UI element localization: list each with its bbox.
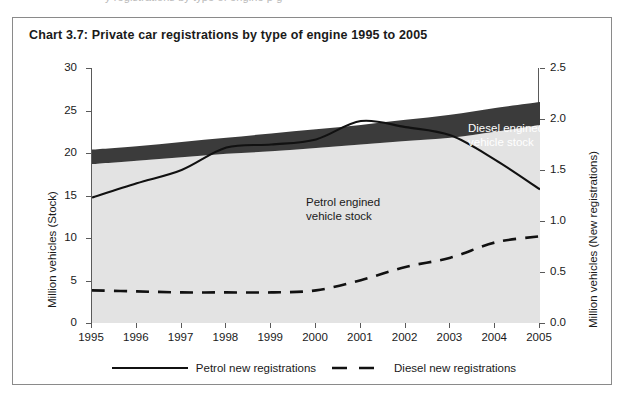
x-axis-tick-label: 2004 (472, 331, 516, 343)
x-axis-tick-label: 1996 (114, 331, 158, 343)
y-right-tick-mark (540, 323, 545, 324)
y-left-tick-mark (86, 323, 91, 324)
y-axis-right-tick-label: 0.0 (550, 316, 566, 328)
x-axis-tick-label: 2001 (338, 331, 382, 343)
y-axis-left-tick-label: 25 (43, 104, 77, 116)
x-axis-tick-label: 2002 (383, 331, 427, 343)
x-axis-tick-label: 2000 (293, 331, 337, 343)
x-axis-tick-label: 2003 (427, 331, 471, 343)
x-axis-tick-label: 2005 (517, 331, 561, 343)
x-axis-tick-label: 1998 (203, 331, 247, 343)
clipped-header-strip: y registrations by type of engine p g (0, 0, 625, 12)
y-axis-right-tick-label: 1.0 (550, 214, 566, 226)
annotation-petrol-stock: Petrol engined vehicle stock (306, 195, 380, 223)
annotation-diesel-stock-line1: Diesel engined (468, 121, 544, 135)
legend-label-diesel: Diesel new registrations (394, 362, 516, 374)
y-axis-right-title: Million vehicles (New registrations) (587, 151, 599, 328)
y-right-tick-mark (540, 221, 545, 222)
chart-title: Chart 3.7: Private car registrations by … (29, 28, 427, 42)
x-tick-mark (91, 323, 92, 328)
legend-solid-line-icon (110, 363, 190, 373)
annotation-petrol-stock-line1: Petrol engined (306, 195, 380, 209)
y-right-tick-mark (540, 170, 545, 171)
x-tick-mark (449, 323, 450, 328)
legend-item-petrol: Petrol new registrations (110, 362, 316, 374)
y-axis-left-tick-label: 10 (43, 231, 77, 243)
legend-item-diesel: Diesel new registrations (330, 362, 516, 374)
x-axis-tick-label: 1999 (248, 331, 292, 343)
x-axis-tick-label: 1997 (159, 331, 203, 343)
x-tick-mark (181, 323, 182, 328)
y-axis-right-tick-label: 1.5 (550, 163, 566, 175)
x-tick-mark (405, 323, 406, 328)
chart-frame: Chart 3.7: Private car registrations by … (12, 17, 612, 385)
y-axis-left-tick-label: 20 (43, 146, 77, 158)
y-axis-left-tick-label: 0 (43, 316, 77, 328)
x-tick-mark (270, 323, 271, 328)
x-tick-mark (315, 323, 316, 328)
annotation-petrol-stock-line2: vehicle stock (306, 209, 380, 223)
y-axis-left-tick-label: 5 (43, 274, 77, 286)
annotation-diesel-stock-line2: vehicle stock (468, 135, 544, 149)
annotation-diesel-stock: Diesel engined vehicle stock (468, 121, 544, 149)
y-axis-right-tick-label: 2.0 (550, 112, 566, 124)
legend-dashed-line-icon (330, 363, 388, 373)
y-axis-right-tick-label: 0.5 (550, 265, 566, 277)
legend-label-petrol: Petrol new registrations (196, 362, 316, 374)
clipped-header-text: y registrations by type of engine p g (105, 0, 282, 3)
x-tick-mark (360, 323, 361, 328)
y-axis-left-tick-label: 15 (43, 189, 77, 201)
x-tick-mark (494, 323, 495, 328)
x-tick-mark (136, 323, 137, 328)
y-right-tick-mark (540, 68, 545, 69)
y-right-tick-mark (540, 119, 545, 120)
y-axis-left-title: Million vehicles (Stock) (46, 191, 58, 308)
y-axis-right-tick-label: 2.5 (550, 61, 566, 73)
y-axis-left-tick-label: 30 (43, 61, 77, 73)
x-axis-tick-label: 1995 (69, 331, 113, 343)
y-right-tick-mark (540, 272, 545, 273)
x-tick-mark (225, 323, 226, 328)
chart-legend: Petrol new registrations Diesel new regi… (13, 362, 613, 374)
